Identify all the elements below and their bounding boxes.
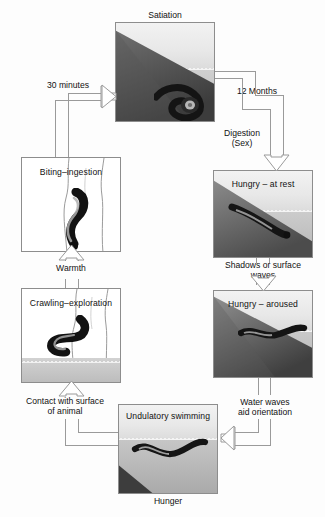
panel-crawling-exploration[interactable]: Crawling–exploration xyxy=(21,288,121,383)
satiation-caption: Satiation xyxy=(115,10,215,21)
edge4-line-v1 xyxy=(256,258,257,263)
edge2-line-v3 xyxy=(270,109,271,157)
hungry-aroused-caption: Hungry – aroused xyxy=(214,299,312,309)
panel-undulatory-swimming[interactable]: Undulatory swimming xyxy=(118,404,218,494)
edge5-arrowhead xyxy=(219,425,236,451)
edge1-line-v1 xyxy=(55,100,56,157)
edge6-line-v2 xyxy=(65,419,66,445)
edge1-line-h1 xyxy=(55,100,103,101)
edge7-line-v1 xyxy=(65,279,66,288)
crawling-waterline xyxy=(22,360,120,363)
edge6-arrowhead xyxy=(57,381,86,397)
edge2-line-h4 xyxy=(255,95,283,96)
edge2-line-v1 xyxy=(255,71,256,95)
figure-canvas: Satiation xyxy=(0,0,325,517)
edge5-line-v3 xyxy=(258,419,259,432)
edge7-arrowhead xyxy=(57,245,86,261)
edge4-arrowhead xyxy=(249,276,278,292)
panel-hungry-aroused[interactable]: Hungry – aroused xyxy=(213,290,313,378)
edge5-line-v1 xyxy=(258,378,259,395)
edge-water-waves-label-line2: aid orientation xyxy=(219,407,311,418)
swimming-leech xyxy=(131,437,211,465)
edge5-line-h2 xyxy=(234,445,271,446)
edge1-arrowhead xyxy=(101,84,117,109)
edge5-line-v2 xyxy=(270,378,271,395)
edge5-line-h1 xyxy=(234,432,259,433)
edge2-line-h1 xyxy=(215,71,256,72)
edge1-line-v2 xyxy=(68,93,69,157)
hunger-caption: Hunger xyxy=(118,496,218,507)
hungry-at-rest-caption: Hungry – at rest xyxy=(214,179,312,189)
edge2-line-v4 xyxy=(283,95,284,157)
panel-satiation[interactable] xyxy=(115,22,215,122)
edge-contact-label-line2: of animal xyxy=(9,406,121,417)
edge-warmth-label: Warmth xyxy=(31,263,111,274)
edge-contact-label-line1: Contact with surface xyxy=(9,396,121,407)
crawling-leech xyxy=(40,315,96,359)
edge6-line-h1 xyxy=(78,432,118,433)
edge4-line-v2 xyxy=(269,258,270,263)
biting-leech xyxy=(52,188,94,250)
panel-biting-ingestion[interactable]: Biting–ingestion xyxy=(21,157,121,252)
edge6-line-h2 xyxy=(65,445,118,446)
undulatory-swimming-caption-line1: Undulatory swimming xyxy=(119,411,217,421)
edge1-line-h2 xyxy=(68,93,103,94)
edge-digestion-label-line1: Digestion xyxy=(210,128,274,139)
edge2-line-h3 xyxy=(242,109,270,110)
satiation-leech xyxy=(154,81,210,121)
edge-shadows-label-line1: Shadows or surface xyxy=(213,260,313,271)
edge6-line-v1 xyxy=(78,419,79,432)
edge2-line-v2 xyxy=(242,78,243,109)
panel-hungry-at-rest[interactable]: Hungry – at rest xyxy=(213,170,313,258)
edge2-arrowhead xyxy=(262,155,291,172)
biting-ingestion-caption: Biting–ingestion xyxy=(22,167,120,177)
edge5-line-v4 xyxy=(270,419,271,445)
edge2-line-h2 xyxy=(215,78,242,79)
crawling-exploration-caption: Crawling–exploration xyxy=(22,298,120,308)
edge-digestion-label-line2: (Sex) xyxy=(210,138,274,149)
hungry-aroused-leech xyxy=(238,322,308,348)
edge-30-minutes-label: 30 minutes xyxy=(28,80,108,91)
edge7-line-v2 xyxy=(78,279,79,288)
edge-water-waves-label-line1: Water waves xyxy=(219,397,311,408)
hungry-rest-leech xyxy=(228,201,294,239)
